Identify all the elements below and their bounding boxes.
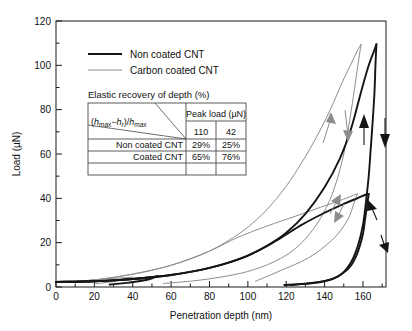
- inset-table-cell-non-coated-110: 29%: [192, 140, 210, 150]
- x-tick-label: 60: [166, 291, 178, 302]
- x-tick-label: 80: [204, 291, 216, 302]
- x-tick-label: 20: [89, 291, 101, 302]
- inset-table-col-header-42: 42: [226, 127, 236, 137]
- inset-table-cell-non-coated-42: 25%: [222, 140, 240, 150]
- x-tick-label: 140: [316, 291, 333, 302]
- inset-table-cell-coated-42: 76%: [222, 152, 240, 162]
- inset-table-col-header-110: 110: [194, 127, 208, 137]
- y-tick-label: 100: [34, 60, 51, 71]
- inset-table-cell-coated-110: 65%: [192, 152, 210, 162]
- y-tick-label: 40: [40, 193, 52, 204]
- x-tick-label: 120: [278, 291, 295, 302]
- legend-label-non-coated: Non coated CNT: [130, 49, 204, 60]
- inset-table-row-label-coated: Coated CNT: [133, 152, 184, 162]
- x-tick-label: 40: [127, 291, 139, 302]
- formula-sub3: max: [134, 121, 147, 128]
- y-tick-label: 60: [40, 149, 52, 160]
- y-tick-label: 0: [45, 282, 51, 293]
- legend-label-carbon-coated: Carbon coated CNT: [130, 65, 219, 76]
- inset-table-caption: Elastic recovery of depth (%): [88, 89, 209, 100]
- inset-table-group-header: Peak load (µN): [186, 109, 246, 119]
- x-tick-label: 100: [240, 291, 257, 302]
- y-tick-label: 120: [34, 16, 51, 27]
- y-tick-label: 20: [40, 237, 52, 248]
- x-axis-title: Penetration depth (nm): [170, 310, 272, 321]
- nanoindentation-load-depth-chart: 020406080100120 020406080100120140160: [0, 0, 412, 331]
- figure-container: 020406080100120 020406080100120140160: [0, 0, 412, 331]
- x-tick-label: 0: [53, 291, 59, 302]
- inset-table-row-label-non-coated: Non coated CNT: [116, 140, 184, 150]
- y-axis-title: Load (µN): [11, 132, 22, 177]
- y-tick-label: 80: [40, 104, 52, 115]
- formula-sub1: max: [99, 121, 112, 128]
- x-tick-label: 160: [355, 291, 372, 302]
